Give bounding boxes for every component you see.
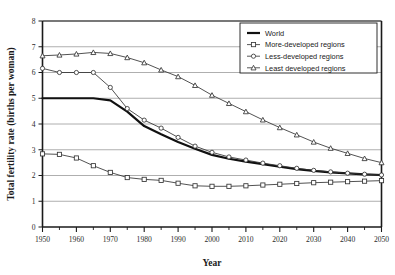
marker-circle: [362, 172, 366, 176]
marker-circle: [346, 171, 350, 175]
marker-circle: [125, 106, 129, 110]
marker-square: [91, 164, 95, 168]
marker-square: [251, 43, 255, 47]
marker-square: [362, 179, 366, 183]
legend-label: Less-developed regions: [265, 52, 344, 61]
marker-square: [210, 184, 214, 188]
legend-label: More-developed regions: [265, 40, 345, 49]
marker-square: [312, 181, 316, 185]
x-tick-label-2040: 2040: [340, 235, 355, 244]
y-tick-label-7: 7: [32, 43, 36, 52]
x-tick-label-1990: 1990: [171, 235, 186, 244]
marker-square: [261, 183, 265, 187]
y-axis-title: Total fertility rate (births per woman): [6, 47, 17, 200]
marker-square: [176, 181, 180, 185]
marker-circle: [227, 155, 231, 159]
x-tick-label-1960: 1960: [69, 235, 84, 244]
chart-canvas: 012345678 195019601970198019902000201020…: [0, 0, 395, 275]
y-tick-label-8: 8: [32, 17, 36, 26]
x-tick-label-2020: 2020: [272, 235, 287, 244]
x-tick-label-2010: 2010: [238, 235, 253, 244]
legend-label: Least developed regions: [265, 64, 346, 73]
marker-square: [227, 184, 231, 188]
y-tick-label-2: 2: [32, 171, 36, 180]
marker-square: [74, 156, 78, 160]
marker-square: [329, 180, 333, 184]
x-axis-title: Year: [203, 258, 223, 268]
marker-square: [193, 184, 197, 188]
marker-circle: [210, 150, 214, 154]
marker-circle: [244, 158, 248, 162]
marker-circle: [193, 144, 197, 148]
marker-circle: [108, 85, 112, 89]
marker-square: [57, 152, 61, 156]
legend-label: World: [265, 29, 284, 38]
y-tick-label-1: 1: [32, 197, 36, 206]
marker-circle: [251, 54, 255, 58]
chart-legend: WorldMore-developed regionsLess-develope…: [240, 23, 377, 73]
marker-circle: [278, 164, 282, 168]
marker-square: [346, 180, 350, 184]
y-tick-label-5: 5: [32, 94, 36, 103]
x-tick-label-2050: 2050: [374, 235, 389, 244]
marker-circle: [261, 161, 265, 165]
marker-circle: [57, 70, 61, 74]
marker-circle: [295, 166, 299, 170]
x-tick-label-2000: 2000: [204, 235, 219, 244]
marker-circle: [379, 173, 383, 177]
marker-circle: [159, 126, 163, 130]
marker-square: [159, 178, 163, 182]
y-tick-label-3: 3: [32, 146, 36, 155]
marker-square: [142, 177, 146, 181]
x-tick-label-2030: 2030: [306, 235, 321, 244]
marker-square: [379, 179, 383, 183]
marker-circle: [312, 168, 316, 172]
marker-circle: [142, 118, 146, 122]
marker-circle: [91, 70, 95, 74]
fertility-rate-chart-figure: 012345678 195019601970198019902000201020…: [0, 0, 395, 275]
marker-square: [295, 181, 299, 185]
y-tick-label-4: 4: [32, 120, 36, 129]
marker-square: [40, 152, 44, 156]
marker-circle: [176, 135, 180, 139]
marker-circle: [74, 70, 78, 74]
y-tick-label-6: 6: [32, 68, 36, 77]
x-tick-label-1980: 1980: [137, 235, 152, 244]
x-tick-label-1970: 1970: [103, 235, 118, 244]
marker-circle: [329, 170, 333, 174]
marker-circle: [40, 66, 44, 70]
y-tick-label-0: 0: [32, 223, 36, 232]
marker-square: [108, 170, 112, 174]
marker-square: [278, 182, 282, 186]
x-tick-label-1950: 1950: [35, 235, 50, 244]
marker-square: [244, 184, 248, 188]
marker-square: [125, 175, 129, 179]
